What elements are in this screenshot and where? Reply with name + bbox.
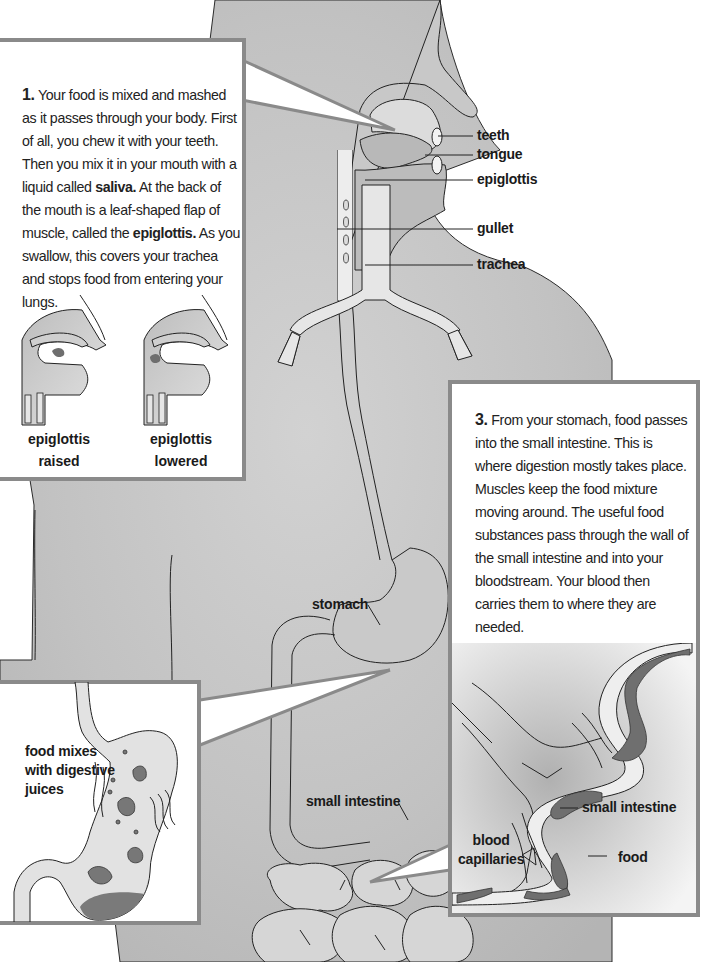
caption-epiglottis-lowered: epiglottis lowered	[136, 428, 226, 472]
digestion-page: 1. Your food is mixed and mashed as it p…	[0, 0, 712, 962]
label-small-intestine-closeup: small intestine	[582, 799, 676, 815]
label-tongue: tongue	[477, 146, 522, 162]
label-epiglottis: epiglottis	[477, 171, 537, 187]
label-food-mixes: food mixes with digestive juices	[25, 742, 115, 799]
label-food: food	[618, 849, 648, 865]
label-small-intestine-body: small intestine	[306, 793, 400, 809]
intestine-closeup	[452, 643, 696, 913]
label-teeth: teeth	[477, 127, 509, 143]
caption-epiglottis-raised: epiglottis raised	[14, 428, 104, 472]
epiglottis-raised-diagram	[22, 295, 106, 425]
step-number: 1.	[22, 86, 35, 103]
label-gullet: gullet	[477, 220, 513, 236]
epiglottis-lowered-diagram	[144, 295, 228, 425]
step-number: 3.	[475, 411, 488, 428]
panel-3-text: 3. From your stomach, food passes into t…	[475, 408, 690, 639]
stomach-closeup	[0, 682, 200, 922]
panel-1-text: 1. Your food is mixed and mashed as it p…	[22, 83, 242, 314]
label-trachea: trachea	[477, 256, 525, 272]
label-stomach: stomach	[312, 596, 368, 612]
epiglottis-diagrams	[0, 285, 250, 435]
label-blood-capillaries: blood capillaries	[458, 831, 524, 869]
